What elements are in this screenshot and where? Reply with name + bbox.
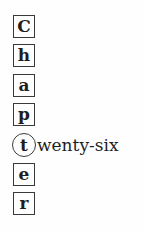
letter-box-r: r xyxy=(13,192,35,215)
chapter-number-text: wenty-six xyxy=(37,137,119,154)
letter-box-h: h xyxy=(13,44,35,67)
letter-box-a: a xyxy=(13,74,35,97)
letter-box-e: e xyxy=(13,163,35,186)
letter-box-p: p xyxy=(13,103,35,126)
letter-circle-t: t xyxy=(12,133,36,157)
letter-box-c: C xyxy=(13,15,35,38)
